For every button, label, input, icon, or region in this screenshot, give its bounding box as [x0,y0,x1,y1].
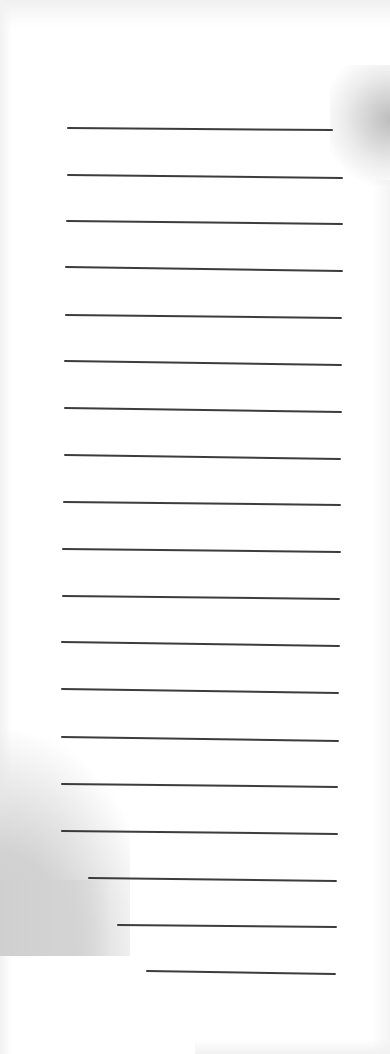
top-right-shadow [330,65,390,185]
ruled-line [67,127,333,131]
ruled-line [64,454,341,460]
ruled-line [63,501,341,506]
ruled-line [67,174,343,179]
ruled-line [61,641,340,647]
ruled-line [64,360,342,366]
bottom-edge-shading [195,1040,390,1054]
lined-paper [0,0,390,1054]
bottom-left-shadow-block [0,880,110,956]
ruled-line [62,548,341,553]
right-edge-shading [372,180,390,1054]
ruled-line [65,266,343,272]
ruled-line [146,970,336,975]
ruled-line [64,407,342,413]
top-edge-shading [0,0,390,30]
ruled-line [117,924,337,928]
ruled-line [61,688,339,694]
ruled-line [62,595,340,600]
ruled-line [65,314,342,319]
ruled-line [66,220,343,225]
